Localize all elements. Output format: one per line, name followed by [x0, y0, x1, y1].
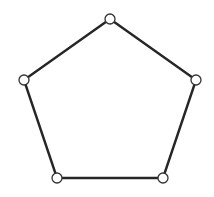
graph-edges — [24, 19, 196, 178]
node-bottom-left — [52, 173, 62, 183]
edge-left-top — [24, 19, 110, 80]
edge-top-right — [110, 19, 196, 80]
node-right — [191, 75, 201, 85]
edge-right-bottom-right — [163, 80, 196, 178]
node-bottom-right — [158, 173, 168, 183]
pentagon-graph-diagram — [0, 0, 214, 197]
node-left — [19, 75, 29, 85]
edge-bottom-left-left — [24, 80, 57, 178]
node-top — [105, 14, 115, 24]
graph-nodes — [19, 14, 201, 183]
